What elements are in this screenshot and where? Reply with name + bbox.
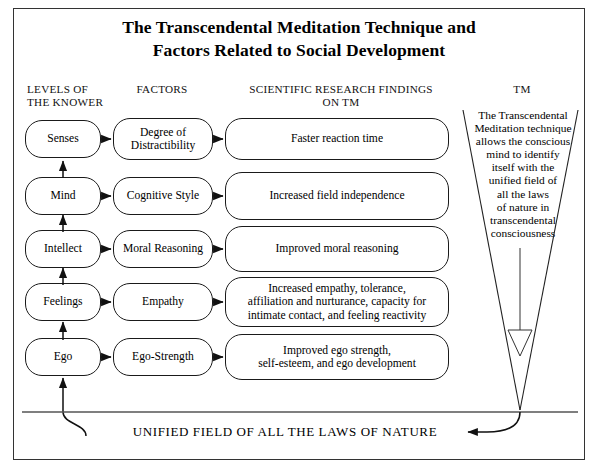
findings-header-line-1: SCIENTIFIC RESEARCH FINDINGS	[232, 83, 450, 96]
diagram-figure: The Transcendental Meditation Technique …	[0, 0, 606, 470]
findings-header-line-2: ON TM	[232, 96, 450, 109]
unified-field-caption: UNIFIED FIELD OF ALL THE LAWS OF NATURE	[60, 424, 510, 440]
levels-header-line-1: LEVELS OF	[27, 83, 103, 96]
factor-box-4: Empathy	[113, 283, 213, 321]
title-line-1: The Transcendental Meditation Technique …	[20, 16, 578, 39]
factor-box-1: Degree ofDistractibility	[113, 118, 213, 160]
finding-box-2: Increased field independence	[225, 172, 449, 220]
column-header-findings: SCIENTIFIC RESEARCH FINDINGS ON TM	[232, 83, 450, 109]
finding-box-5: Improved ego strength,self-esteem, and e…	[225, 334, 449, 380]
title-line-2: Factors Related to Social Development	[20, 39, 578, 62]
finding-box-3: Improved moral reasoning	[225, 226, 449, 272]
finding-box-1: Faster reaction time	[225, 118, 449, 160]
factor-box-3: Moral Reasoning	[113, 230, 213, 268]
factor-box-2: Cognitive Style	[113, 177, 213, 215]
column-header-factors: FACTORS	[112, 83, 212, 96]
tm-panel-text: The TranscendentalMeditation techniqueal…	[467, 109, 579, 240]
level-box-1: Senses	[25, 120, 101, 158]
levels-header-line-2: THE KNOWER	[27, 96, 103, 109]
column-header-levels: LEVELS OF THE KNOWER	[27, 83, 103, 109]
factor-box-5: Ego-Strength	[113, 338, 213, 376]
level-box-4: Feelings	[25, 283, 101, 321]
level-box-3: Intellect	[25, 230, 101, 268]
level-box-5: Ego	[25, 338, 101, 376]
column-header-tm: TM	[487, 83, 557, 96]
finding-box-4: Increased empathy, tolerance,affiliation…	[225, 277, 449, 327]
level-box-2: Mind	[25, 177, 101, 215]
figure-title: The Transcendental Meditation Technique …	[20, 16, 578, 62]
